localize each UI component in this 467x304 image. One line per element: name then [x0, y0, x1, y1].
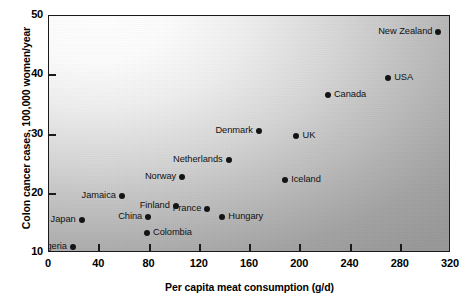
data-point	[435, 29, 441, 35]
data-point	[119, 193, 125, 199]
data-point-label: Canada	[334, 91, 366, 100]
x-axis-tick-label: 160	[229, 257, 269, 269]
y-axis-tick	[49, 74, 56, 76]
x-axis-tick-label: 0	[28, 257, 68, 269]
data-point-label: USA	[394, 73, 413, 82]
x-axis-tick-label: 200	[279, 257, 319, 269]
x-axis-tick-label: 280	[380, 257, 420, 269]
x-axis-title: Per capita meat consumption (g/d)	[48, 281, 451, 293]
scatter-plot-figure: Colon cancer cases, 100,000 women/year P…	[0, 0, 467, 304]
data-point	[293, 133, 299, 139]
x-axis-tick-label: 80	[129, 257, 169, 269]
x-axis-tick-label: 320	[430, 257, 467, 269]
data-point	[204, 206, 210, 212]
plot-area: NigeriaJapanJamaicaChinaColombiaFinlandN…	[48, 15, 450, 252]
y-axis-tick-label: 50	[13, 8, 43, 20]
data-point-label: China	[118, 213, 142, 222]
data-point	[144, 230, 150, 236]
y-axis-tick-label: 20	[13, 186, 43, 198]
x-axis-tick	[350, 244, 352, 251]
data-point-label: Iceland	[291, 175, 321, 184]
data-point	[282, 177, 288, 183]
x-axis-tick	[249, 244, 251, 251]
data-point-label: Hungary	[228, 212, 263, 221]
data-point-label: Finland	[140, 201, 170, 210]
x-axis-tick	[149, 244, 151, 251]
data-point-label: Norway	[145, 172, 176, 181]
data-point	[219, 214, 225, 220]
x-axis-tick-label: 40	[78, 257, 118, 269]
data-point-label: New Zealand	[378, 27, 432, 36]
data-point-label: Jamaica	[82, 191, 116, 200]
data-point-label: Nigeria	[48, 242, 67, 251]
y-axis-tick	[49, 134, 56, 136]
data-point-label: Colombia	[153, 228, 192, 237]
data-point	[70, 244, 76, 250]
data-point	[385, 75, 391, 81]
y-axis-tick-label: 10	[13, 245, 43, 257]
y-axis-tick-label: 30	[13, 127, 43, 139]
x-axis-tick	[400, 244, 402, 251]
x-axis-tick	[299, 244, 301, 251]
data-point-label: Netherlands	[173, 155, 223, 164]
data-point	[256, 128, 262, 134]
y-axis-tick	[49, 193, 56, 195]
data-point-label: France	[173, 204, 202, 213]
x-axis-tick-label: 120	[179, 257, 219, 269]
data-point	[179, 174, 185, 180]
data-point	[226, 157, 232, 163]
data-point	[145, 214, 151, 220]
data-point	[79, 217, 85, 223]
data-point-label: UK	[302, 131, 315, 140]
x-axis-tick-label: 240	[330, 257, 370, 269]
y-axis-tick-label: 40	[13, 67, 43, 79]
data-point-label: Denmark	[215, 126, 252, 135]
data-point-label: Japan	[51, 215, 76, 224]
x-axis-tick	[98, 244, 100, 251]
x-axis-tick	[199, 244, 201, 251]
data-point	[325, 92, 331, 98]
